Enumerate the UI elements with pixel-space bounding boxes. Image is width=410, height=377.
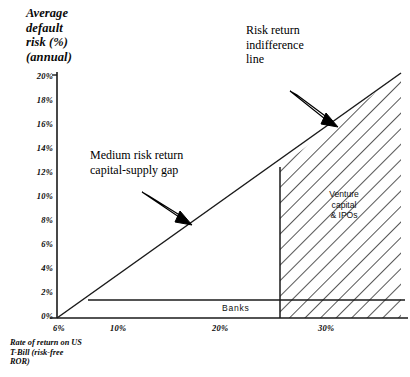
- medium-risk-arrow: [142, 192, 192, 225]
- annotation-risk-line-2: indifference: [246, 38, 304, 53]
- annotation-gap-line-1: Medium risk return: [90, 148, 183, 163]
- region-label-vc-line-3: & IPOs: [313, 210, 375, 221]
- annotation-risk-line-1: Risk return: [246, 23, 304, 38]
- risk-return-arrow: [290, 91, 338, 127]
- region-label-vc-line-1: Venture: [313, 189, 375, 200]
- annotation-gap-line-2: capital-supply gap: [90, 163, 183, 178]
- region-label-vc-line-2: capital: [313, 200, 375, 211]
- annotation-risk-return-indifference-line: Risk return indifference line: [246, 23, 304, 67]
- chart-figure: Average default risk (%) (annual) 20% 18…: [0, 0, 410, 377]
- region-label-banks: Banks: [222, 303, 249, 313]
- annotation-medium-risk-capital-supply-gap: Medium risk return capital-supply gap: [90, 148, 183, 177]
- annotation-risk-line-3: line: [246, 52, 304, 67]
- region-label-venture-capital: Venture capital & IPOs: [313, 189, 375, 221]
